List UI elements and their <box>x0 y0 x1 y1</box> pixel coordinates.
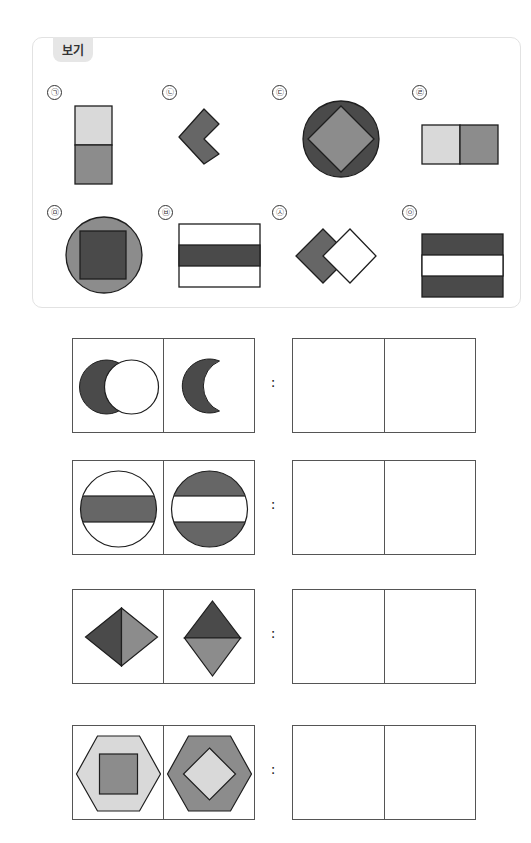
question-row-1: : <box>72 338 476 433</box>
example-box-title: 보기 <box>53 37 93 62</box>
figure-circle-with-square <box>65 215 145 297</box>
given-figure-overlapping-circles <box>73 339 164 432</box>
choice-4[interactable]: ㉣ <box>412 85 512 195</box>
given-pair <box>72 338 255 433</box>
right-square-medium <box>460 125 498 164</box>
figure-horizontal-two-squares <box>421 124 501 166</box>
choice-label: ㉡ <box>162 85 177 100</box>
figure-overlapping-diamonds <box>294 227 378 287</box>
answer-cell-2[interactable] <box>385 590 476 683</box>
figure-vertical-two-squares <box>74 105 114 187</box>
left-half-dark <box>86 608 122 666</box>
question-row-3: : <box>72 589 476 684</box>
middle-band-dark <box>179 245 260 266</box>
choice-label: ㉧ <box>402 205 417 220</box>
ratio-separator: : <box>270 765 276 773</box>
top-square-light <box>75 106 112 145</box>
left-square-light <box>422 125 460 164</box>
colon-text: : <box>271 761 276 777</box>
answer-cell-2[interactable] <box>385 339 476 432</box>
top-half-dark <box>185 601 241 638</box>
question-row-2: : <box>72 460 476 555</box>
choice-label: ㉤ <box>47 205 62 220</box>
chevron-shape-dark <box>179 109 219 164</box>
choice-label: ㉣ <box>412 85 427 100</box>
given-figure-hexagon-with-diamond <box>164 726 255 819</box>
choice-2[interactable]: ㉡ <box>162 85 242 195</box>
choice-label: ㉠ <box>47 85 62 100</box>
choice-3[interactable]: ㉢ <box>272 85 372 195</box>
choice-8[interactable]: ㉧ <box>402 205 512 305</box>
answer-cell-2[interactable] <box>385 726 476 819</box>
bottom-square-medium <box>75 145 112 184</box>
right-half-medium <box>122 608 158 666</box>
choice-label: ㉢ <box>272 85 287 100</box>
choice-6[interactable]: ㉥ <box>158 205 268 305</box>
answer-pair[interactable] <box>292 460 476 555</box>
answer-cell-1[interactable] <box>293 461 384 554</box>
answer-cell-1[interactable] <box>293 339 384 432</box>
given-figure-crescent <box>164 339 255 432</box>
given-pair <box>72 725 255 820</box>
middle-band-white <box>422 255 503 276</box>
given-figure-circle-white-band <box>164 461 255 554</box>
choice-label: ㉦ <box>272 205 287 220</box>
given-figure-hexagon-with-square <box>73 726 164 819</box>
dark-band <box>74 496 164 522</box>
figure-rect-dark-band <box>178 223 262 289</box>
given-figure-diamond-vertical-split <box>73 590 164 683</box>
answer-cell-1[interactable] <box>293 726 384 819</box>
ratio-separator: : <box>270 500 276 508</box>
given-pair <box>72 589 255 684</box>
given-pair <box>72 460 255 555</box>
question-row-4: : <box>72 725 476 820</box>
ratio-separator: : <box>270 629 276 637</box>
figure-chevron <box>177 107 227 167</box>
given-figure-diamond-horizontal-split <box>164 590 255 683</box>
white-circle <box>105 360 159 414</box>
dark-crescent <box>182 359 219 413</box>
answer-pair[interactable] <box>292 725 476 820</box>
answer-pair[interactable] <box>292 589 476 684</box>
given-figure-circle-dark-band <box>73 461 164 554</box>
colon-text: : <box>271 625 276 641</box>
choice-5[interactable]: ㉤ <box>47 205 147 305</box>
choice-label: ㉥ <box>158 205 173 220</box>
colon-text: : <box>271 374 276 390</box>
answer-cell-1[interactable] <box>293 590 384 683</box>
ratio-separator: : <box>270 378 276 386</box>
figure-circle-with-diamond <box>302 99 382 181</box>
figure-rect-white-band <box>421 233 505 299</box>
answer-pair[interactable] <box>292 338 476 433</box>
white-band <box>165 496 255 522</box>
answer-cell-2[interactable] <box>385 461 476 554</box>
medium-square <box>100 754 138 794</box>
choice-7[interactable]: ㉦ <box>272 205 382 305</box>
inner-square-dark <box>80 231 126 279</box>
bottom-half-medium <box>185 638 241 676</box>
colon-text: : <box>271 496 276 512</box>
choice-1[interactable]: ㉠ <box>47 85 127 195</box>
